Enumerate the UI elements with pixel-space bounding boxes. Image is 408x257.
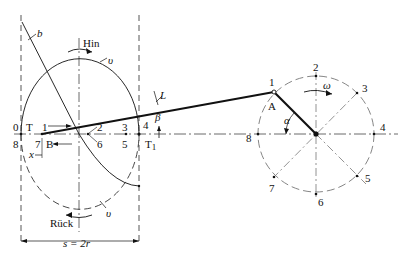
- label-omega: ω: [323, 79, 331, 91]
- left-point-8: 8: [13, 138, 19, 150]
- left-point-6: 6: [97, 138, 103, 150]
- left-point-4: 4: [143, 119, 149, 131]
- label-T: T: [26, 121, 33, 133]
- crank-point-1: 1: [269, 76, 275, 88]
- crank-center: [313, 131, 318, 136]
- label-alpha: α: [284, 114, 290, 126]
- label-L: L: [159, 89, 166, 101]
- label-rueck: Rück: [50, 217, 74, 229]
- label-T1: T1: [145, 138, 156, 152]
- label-beta: β: [154, 111, 161, 123]
- left-point-3: 3: [122, 121, 128, 133]
- label-v-top: υ: [108, 54, 113, 66]
- left-point-2: 2: [97, 121, 103, 133]
- crank-point-3: 3: [362, 82, 368, 94]
- left-point-7: 7: [35, 138, 41, 150]
- crank-point-6: 6: [318, 196, 324, 208]
- crank-point-5: 5: [365, 172, 371, 184]
- crank-arm: [274, 92, 316, 134]
- label-A: A: [268, 100, 276, 112]
- left-point-0: 0: [13, 121, 19, 133]
- slider-crank-diagram: b Hin υ υ Rück s = 2r L A α β ω x T T1 B…: [0, 0, 408, 257]
- crank-point-2: 2: [313, 61, 319, 73]
- crank-point-8: 8: [246, 132, 252, 144]
- crank-point-7: 7: [269, 182, 275, 194]
- label-v-bottom: υ: [106, 207, 111, 219]
- label-b: b: [37, 27, 43, 39]
- label-B: B: [46, 138, 53, 150]
- crank-point-4: 4: [380, 121, 386, 133]
- left-point-1: 1: [42, 121, 48, 133]
- curve-b: [22, 22, 139, 186]
- label-x: x: [28, 148, 34, 160]
- label-stroke: s = 2r: [63, 237, 91, 249]
- label-hin: Hin: [83, 37, 100, 49]
- left-point-5: 5: [122, 138, 128, 150]
